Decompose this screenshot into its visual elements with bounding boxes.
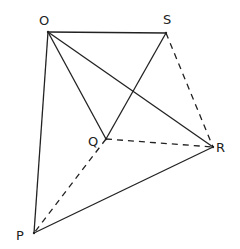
segment-QP [34, 139, 106, 233]
vertex-O [47, 31, 49, 33]
segment-SQ [106, 33, 166, 139]
point-label-S: S [163, 12, 171, 27]
vertex-S [165, 32, 167, 34]
segment-OR [48, 32, 213, 147]
segment-OP [34, 32, 48, 233]
point-label-O: O [39, 13, 49, 28]
point-label-Q: Q [88, 134, 98, 149]
vertex-R [212, 146, 214, 148]
point-label-P: P [16, 228, 24, 243]
vertex-Q [105, 138, 107, 140]
segment-QR [106, 139, 213, 147]
vertex-P [33, 232, 35, 234]
segment-OQ [48, 32, 106, 139]
geometry-diagram: OSQRP [0, 0, 240, 249]
edges-group [34, 32, 213, 233]
segment-PR [34, 147, 213, 233]
point-label-R: R [216, 140, 225, 155]
segment-OS [48, 32, 166, 33]
